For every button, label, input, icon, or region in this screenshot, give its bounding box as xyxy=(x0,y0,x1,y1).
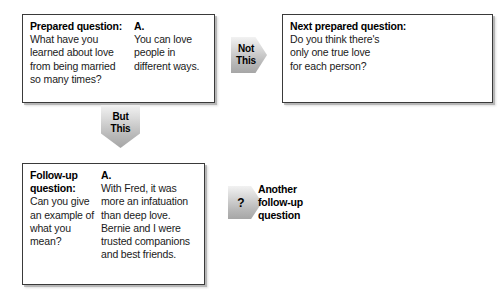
another-follow-up-question-label: Another follow-up question xyxy=(258,183,368,223)
prepared-question-column: Prepared question: What have you learned… xyxy=(30,20,134,97)
next-prepared-question-text: Do you think there's only one true love … xyxy=(290,33,486,73)
but-this-arrow-label: But This xyxy=(111,111,131,141)
next-prepared-question-box: Next prepared question: Do you think the… xyxy=(282,14,493,103)
question-mark-arrow: ? xyxy=(228,186,262,219)
prepared-question-text: What have you learned about love from be… xyxy=(30,33,134,86)
follow-up-answer-text: With Fred, it was more an infatuation th… xyxy=(101,182,198,261)
not-this-arrow-label: Not This xyxy=(236,43,262,66)
but-this-arrow: But This xyxy=(101,105,140,148)
follow-up-answer-label: A. xyxy=(101,169,198,182)
prepared-answer-text: You can love people in different ways. xyxy=(134,33,208,73)
not-this-arrow: Not This xyxy=(231,37,267,73)
prepared-question-label: Prepared question: xyxy=(30,20,134,33)
prepared-question-box: Prepared question: What have you learned… xyxy=(22,14,215,103)
follow-up-answer-column: A. With Fred, it was more an infatuation… xyxy=(101,169,198,279)
follow-up-question-column: Follow-up question: Can you give an exam… xyxy=(30,169,101,279)
follow-up-question-label: Follow-up question: xyxy=(30,169,101,195)
question-mark-arrow-label: ? xyxy=(237,196,252,210)
diagram-canvas: Prepared question: What have you learned… xyxy=(0,0,502,298)
prepared-answer-column: A. You can love people in different ways… xyxy=(134,20,208,97)
next-prepared-question-label: Next prepared question: xyxy=(290,20,486,33)
follow-up-question-text: Can you give an example of what you mean… xyxy=(30,195,101,248)
next-prepared-question-column: Next prepared question: Do you think the… xyxy=(290,20,486,97)
prepared-answer-label: A. xyxy=(134,20,208,33)
follow-up-question-box: Follow-up question: Can you give an exam… xyxy=(22,163,205,285)
